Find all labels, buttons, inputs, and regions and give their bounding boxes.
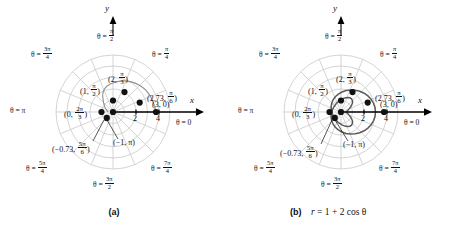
y-axis-arrowhead-a — [110, 16, 117, 24]
x-tick-2-a: 2 — [133, 115, 137, 123]
caption-b-letter: (b) — [290, 207, 302, 217]
point-2-pi3 — [121, 89, 127, 95]
caption-b: (b) r = 1 + 2 cos θ — [290, 207, 456, 217]
theta-label-pi-over-2-b: θ = π2 — [325, 28, 343, 42]
point-1-pi2 — [110, 97, 116, 103]
panel-a: θ = π2 θ = π4 θ = 3π4 θ = π θ = 5π4 θ = … — [0, 0, 228, 235]
x-tick-2-b: 2 — [361, 115, 365, 123]
theta-label-pi-over-2-a: θ = π2 — [97, 28, 115, 42]
panel-b-plot: θ = π2 θ = π4 θ = 3π4 θ = π θ = 5π4 θ = … — [228, 0, 456, 205]
x-axis-arrowhead-a — [196, 108, 204, 116]
point-label-minus1-pi-a: (−1, π) — [113, 139, 135, 147]
panel-b: θ = π2 θ = π4 θ = 3π4 θ = π θ = 5π4 θ = … — [228, 0, 456, 235]
point-2p73-pi6 — [365, 100, 371, 106]
point-label-1-pi2-a: (1, π2) — [80, 82, 100, 97]
theta-label-pi-b: θ = π — [238, 107, 253, 115]
x-axis-label-b: x — [418, 96, 422, 105]
y-axis-label-a: y — [105, 4, 109, 13]
theta-zero-label-b: θ = 0 — [404, 119, 419, 127]
point-minus1-pi — [98, 109, 104, 115]
point-label-1-pi2-b: (1, π2) — [308, 82, 328, 97]
theta-label-3pi-over-4-b: θ = 3π4 — [259, 46, 280, 60]
x-tick-4-b: 4 — [384, 115, 388, 123]
theta-label-pi-over-4-a: θ = π4 — [152, 46, 170, 60]
theta-zero-label-a: θ = 0 — [176, 119, 191, 127]
theta-label-pi-over-4-b: θ = π4 — [380, 46, 398, 60]
point-label-3-0-a: (3, 0) — [152, 101, 169, 109]
theta-label-3pi-over-4-a: θ = 3π4 — [31, 46, 52, 60]
point-minus0p73-5pi6 — [332, 115, 338, 121]
point-label-0-2pi3-a: (0, 2π3) — [64, 105, 87, 120]
y-axis-arrowhead-b — [338, 16, 345, 24]
point-label-0-2pi3-b: (0, 2π3) — [292, 105, 315, 120]
theta-label-3pi-over-2-a: θ = 3π2 — [93, 176, 114, 190]
panel-a-plot: θ = π2 θ = π4 θ = 3π4 θ = π θ = 5π4 θ = … — [0, 0, 228, 205]
theta-label-3pi-over-2-b: θ = 3π2 — [321, 176, 342, 190]
point-2p73-pi6 — [137, 100, 143, 106]
theta-label-7pi-over-4-b: θ = 7π4 — [379, 160, 400, 174]
point-minus0p73-5pi6 — [104, 115, 110, 121]
point-label-2-pi3-a: (2, π3) — [108, 70, 128, 85]
point-label-minus0p73-5pi6-b: (−0.73, 5π6) — [280, 144, 318, 159]
caption-a: (a) — [0, 207, 228, 217]
theta-label-7pi-over-4-a: θ = 7π4 — [151, 160, 172, 174]
theta-label-5pi-over-4-b: θ = 5π4 — [254, 160, 275, 174]
point-label-2-pi3-b: (2, π3) — [336, 70, 356, 85]
polar-graph-figure: θ = π2 θ = π4 θ = 3π4 θ = π θ = 5π4 θ = … — [0, 0, 456, 235]
x-axis-label-a: x — [190, 96, 194, 105]
y-axis-label-b: y — [333, 4, 337, 13]
theta-label-5pi-over-4-a: θ = 5π4 — [26, 160, 47, 174]
point-label-3-0-b: (3, 0) — [380, 101, 397, 109]
point-0-2pi3 — [338, 109, 344, 115]
caption-b-equation: r = 1 + 2 cos θ — [311, 207, 366, 217]
point-2-pi3 — [349, 89, 355, 95]
point-1-pi2 — [338, 97, 344, 103]
point-minus1-pi — [326, 109, 332, 115]
x-axis-arrowhead-b — [424, 108, 432, 116]
x-tick-4-a: 4 — [156, 115, 160, 123]
point-label-minus0p73-5pi6-a: (−0.73, 5π6) — [52, 140, 90, 155]
point-0-2pi3 — [110, 109, 116, 115]
theta-label-pi-a: θ = π — [10, 107, 25, 115]
point-label-minus1-pi-b: (−1, π) — [343, 141, 365, 149]
